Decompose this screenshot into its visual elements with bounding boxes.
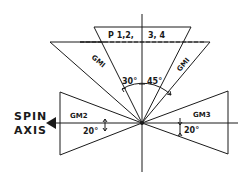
axis-label: AXIS — [14, 124, 47, 137]
spin-axis-arrowhead — [46, 117, 56, 129]
spin-label: SPIN — [14, 110, 47, 123]
p-label-left: P 1,2, — [108, 31, 134, 40]
gm2-label: GM2 — [70, 112, 88, 120]
spin-axis-diagram: P 1,2, 3, 4 GMI GMI GM2 GM3 30° 45° 20° … — [0, 0, 248, 179]
gm1-right-label: GMI — [175, 56, 191, 73]
p-label-right: 3, 4 — [148, 31, 165, 40]
angle-20-left-label: 20° — [83, 127, 98, 136]
gm1-left-label: GMI — [90, 53, 107, 69]
origin-point — [140, 121, 144, 125]
angle-30-label: 30° — [122, 77, 137, 86]
gm3-label: GM3 — [193, 111, 211, 119]
angle-45-label: 45° — [147, 77, 162, 86]
angle-20-right-label: 20° — [184, 126, 199, 135]
